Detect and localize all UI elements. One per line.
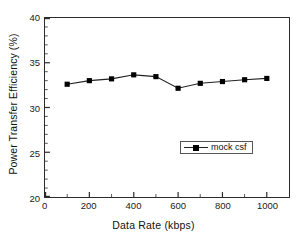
series-markers: [65, 72, 270, 91]
data-point: [198, 81, 203, 86]
x-tick-label-0: 0: [42, 200, 47, 211]
data-point: [153, 74, 158, 79]
y-axis-title-wrapper: Power Transfer Efficiency (%): [7, 11, 21, 197]
chart-figure: 40 35 30 25 20: [0, 0, 307, 242]
data-point: [242, 77, 247, 82]
y-axis-title: Power Transfer Efficiency (%): [7, 11, 19, 197]
x-minor-ticks: [67, 194, 244, 197]
x-tick-label-1000: 1000: [257, 200, 278, 211]
data-point: [131, 72, 136, 77]
data-point: [109, 76, 114, 81]
data-point: [176, 86, 181, 91]
x-axis-tick-labels: 0 200 400 600 800 1000: [0, 200, 307, 216]
legend-label-mock-csf: mock csf: [211, 143, 247, 152]
series-line: [67, 75, 267, 88]
data-point: [220, 79, 225, 84]
legend[interactable]: mock csf: [180, 141, 253, 154]
x-tick-label-600: 600: [170, 200, 186, 211]
x-tick-label-200: 200: [81, 200, 97, 211]
x-axis-title: Data Rate (kbps): [0, 219, 307, 231]
data-point: [87, 78, 92, 83]
y-major-ticks: [45, 19, 50, 197]
x-tick-label-800: 800: [215, 200, 231, 211]
data-point: [264, 76, 269, 81]
data-series-mock-csf: [65, 72, 270, 91]
x-tick-label-400: 400: [126, 200, 142, 211]
legend-marker-icon: [184, 144, 208, 152]
plot-svg: [45, 18, 289, 197]
data-point: [65, 82, 70, 87]
plot-area: [44, 17, 290, 198]
